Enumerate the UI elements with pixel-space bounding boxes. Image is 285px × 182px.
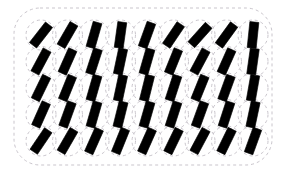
- stimulus-canvas: [0, 0, 285, 182]
